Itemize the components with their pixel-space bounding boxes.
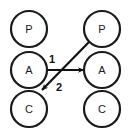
diagram-canvas: 2 1 P A C P A C [0, 0, 129, 137]
node-right-c[interactable]: C [84, 91, 120, 127]
node-left-a[interactable]: A [11, 52, 47, 88]
node-left-c[interactable]: C [11, 91, 47, 127]
node-label: P [98, 23, 105, 35]
node-right-a[interactable]: A [84, 52, 120, 88]
edge-1-label: 1 [49, 53, 55, 65]
diagram-svg: 2 1 P A C P A C [0, 0, 129, 137]
node-label: C [98, 103, 106, 115]
node-label: C [25, 103, 33, 115]
node-left-p[interactable]: P [11, 11, 47, 47]
edge-2-label: 2 [56, 81, 62, 93]
edge-2-group: 2 [42, 42, 89, 93]
node-label: A [25, 64, 33, 76]
edge-2-line [42, 42, 89, 90]
node-right-p[interactable]: P [84, 11, 120, 47]
node-label: P [25, 23, 32, 35]
node-label: A [98, 64, 106, 76]
